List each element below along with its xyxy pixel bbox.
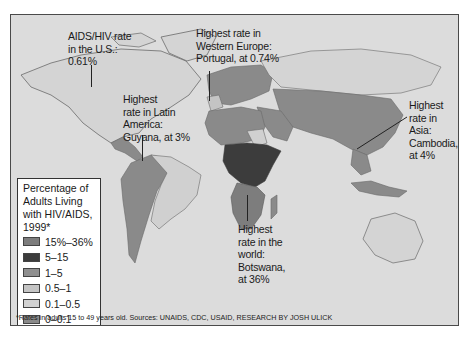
legend-swatch [23,268,40,277]
legend-swatch [23,284,40,293]
region-australia [363,213,423,263]
footnote: *Rates in adults 15 to 49 years old. Sou… [16,313,332,322]
region-russia [261,49,441,95]
legend-item: 15%–36% [23,234,96,250]
legend-item: 0.5–1 [23,281,96,297]
annotation-world: Highest rate in the world: Botswana, at … [238,223,285,286]
leader-asia [351,115,411,165]
map-frame: AIDS/HIV rate in the U.S.: 0.61% Highest… [10,14,459,326]
legend: Percentage of Adults Living with HIV/AID… [17,178,101,326]
legend-title: Percentage of Adults Living with HIV/AID… [23,182,96,234]
legend-item: 5–15 [23,250,96,266]
region-indonesia [351,181,407,197]
annotation-us: AIDS/HIV rate in the U.S.: 0.61% [68,30,131,68]
leader-us [91,65,92,87]
legend-item: 0.1–0.5 [23,296,96,312]
annotation-asia: Highest rate in Asia: Cambodia, at 4% [409,99,458,162]
leader-world [247,195,248,221]
region-madagascar [271,195,277,219]
legend-item: 1–5 [23,265,96,281]
legend-swatch [23,299,40,308]
annotation-latin-america: Highest rate in Latin America: Guyana, a… [123,93,190,143]
leader-europe [209,71,210,101]
region-central-east-africa [223,143,281,187]
annotation-western-europe: Highest rate in Western Europe: Portugal… [196,27,279,65]
legend-swatch [23,237,40,246]
legend-swatch [23,253,40,262]
